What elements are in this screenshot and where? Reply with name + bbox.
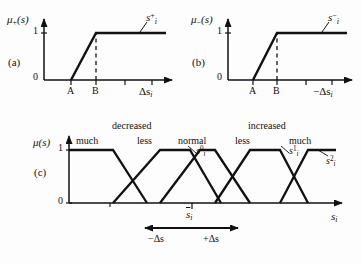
panel-c-set-label-less-increased: less xyxy=(235,136,250,146)
figure-vector-graphics xyxy=(0,0,362,265)
panel-c-group-label-increased: increased xyxy=(248,121,286,131)
panel-b-curve xyxy=(253,22,347,80)
panel-c-tag: (c) xyxy=(34,167,46,178)
panel-a-curve xyxy=(71,22,166,80)
panel-a-delta-s-subscript: i xyxy=(150,90,152,99)
panel-c-curve-label-s1: s1i xyxy=(289,146,299,158)
panel-a-xtick-B: B xyxy=(92,86,99,96)
panel-a-curve-label: s+i xyxy=(146,12,157,25)
panel-b-ytick-1: 1 xyxy=(217,26,222,36)
panel-c-set-label-much-decreased: much xyxy=(76,136,98,146)
panel-c-y-axis-label: μ(s) xyxy=(33,137,50,148)
panel-c-span-label-positive: +Δs xyxy=(203,234,219,244)
panel-a-axes xyxy=(41,19,172,85)
panel-c-s1-subscript: i xyxy=(297,150,299,158)
panel-a-y-axis-label: μ+(s) xyxy=(7,14,29,27)
panel-c-s0-subscript: i xyxy=(204,150,206,158)
panel-b-neg-delta-s: −Δs xyxy=(313,85,331,97)
panel-a-xtick-A: A xyxy=(67,86,74,96)
panel-b-y-axis-label: μ−(s) xyxy=(191,14,213,27)
panel-b-xtick-B: B xyxy=(273,86,280,96)
panel-c-s-bar-subscript: i xyxy=(190,213,192,222)
panel-b-ytick-0: 0 xyxy=(217,72,222,82)
panel-c-x-axis-label: si xyxy=(331,211,337,224)
panel-a-ytick-0: 0 xyxy=(33,72,38,82)
panel-c-span-label-negative: −Δs xyxy=(148,234,164,244)
panel-a-ytick-1: 1 xyxy=(33,26,38,36)
panel-c-center-tick-label: si xyxy=(186,209,192,222)
panel-a-x-axis-label: Δsi xyxy=(139,86,153,99)
figure-container: (a) μ+(s) 1 0 A B Δsi s+i (b) μ−(s) 1 0 … xyxy=(0,0,362,265)
panel-c-curve-label-s2: s2i xyxy=(326,156,336,168)
panel-c-ytick-1: 1 xyxy=(58,143,63,153)
panel-b-x-axis-label: −Δsi xyxy=(313,86,333,99)
panel-b-xtick-A: A xyxy=(249,86,256,96)
panel-b-mu-argument: (s) xyxy=(201,13,213,25)
panel-a-curve-subscript: i xyxy=(155,17,157,26)
panel-c-mu-argument: (s) xyxy=(39,136,51,148)
panel-a-mu-argument: (s) xyxy=(17,13,29,25)
panel-b-curve-subscript: i xyxy=(337,17,339,26)
panel-c-s2-subscript: i xyxy=(334,160,336,168)
panel-c-group-label-decreased: decreased xyxy=(112,121,151,131)
panel-c-set-label-less-decreased: less xyxy=(137,136,152,146)
panel-a-delta-s: Δs xyxy=(139,85,150,97)
panel-c-ytick-0: 0 xyxy=(58,196,63,206)
panel-c-curve-label-s0: s0i xyxy=(196,146,206,158)
panel-b-curve-label: s−i xyxy=(328,12,339,25)
panel-c-s-subscript: i xyxy=(335,215,337,224)
panel-b-axes xyxy=(225,19,352,85)
panel-b-neg-delta-s-subscript: i xyxy=(331,90,333,99)
panel-b-tag: (b) xyxy=(192,57,205,68)
panel-a-tag: (a) xyxy=(8,57,20,68)
